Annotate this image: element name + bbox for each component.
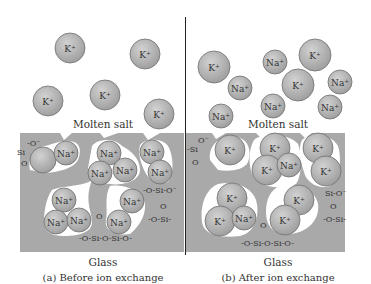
ion-label: Na⁺ — [151, 168, 169, 178]
potassium-ion-icon: K⁺ — [144, 99, 174, 129]
ion-label: Na⁺ — [91, 169, 109, 179]
sodium-ion-icon: Na⁺ — [277, 153, 301, 177]
silicate-network-label: O — [160, 202, 167, 211]
ion-label: K⁺ — [309, 51, 321, 61]
ion-label: Na⁺ — [116, 166, 134, 176]
potassium-ion-icon: K⁺ — [215, 135, 245, 165]
silicate-network-label: O — [260, 221, 267, 230]
sodium-ion-icon: Na⁺ — [148, 160, 172, 184]
ion-label: Na⁺ — [231, 84, 249, 94]
ion-label: K⁺ — [269, 144, 281, 154]
potassium-ion-icon: K⁺ — [282, 69, 314, 101]
ion-label: Na⁺ — [70, 216, 88, 226]
potassium-ion-icon: K⁺ — [198, 51, 230, 83]
potassium-ion-icon: K⁺ — [252, 155, 282, 185]
sodium-ion-icon: Na⁺ — [318, 95, 342, 119]
vacancy-ion-icon — [30, 147, 56, 173]
silicate-network-label: O — [192, 158, 199, 167]
ion-label: K⁺ — [139, 50, 151, 60]
molten-salt-label-b: Molten salt — [248, 118, 309, 130]
ion-label: Na⁺ — [123, 197, 141, 207]
ion-label: K⁺ — [312, 144, 324, 154]
ion-label: K⁺ — [320, 167, 332, 177]
ion-label: Na⁺ — [57, 149, 75, 159]
sodium-ion-icon: Na⁺ — [228, 76, 252, 100]
ion-label: K⁺ — [153, 110, 165, 120]
ion-label: Na⁺ — [264, 102, 282, 112]
potassium-ion-icon: K⁺ — [33, 86, 63, 116]
potassium-ion-icon: K⁺ — [90, 80, 120, 110]
sodium-ion-icon: Na⁺ — [67, 208, 91, 232]
sodium-ion-icon: Na⁺ — [88, 161, 112, 185]
potassium-ion-icon: K⁺ — [55, 33, 85, 63]
ion-label: Na⁺ — [100, 149, 118, 159]
silicate-network-label: -O-Si-O-Si-O- — [79, 234, 132, 243]
ion-label: Na⁺ — [280, 161, 298, 171]
silicate-network-label: O⁻ — [198, 136, 209, 145]
silicate-network-label: O — [21, 159, 28, 168]
silicate-network-label: O — [330, 202, 337, 211]
ion-label: K⁺ — [64, 44, 76, 54]
ion-label: K⁺ — [293, 196, 305, 206]
potassium-ion-icon: K⁺ — [205, 206, 235, 236]
ion-label: Na⁺ — [110, 218, 128, 228]
sodium-ion-icon: Na⁺ — [54, 141, 78, 165]
silicate-network-label: O — [96, 212, 103, 221]
potassium-ion-icon: K⁺ — [311, 156, 341, 186]
ion-label: Na⁺ — [212, 112, 230, 122]
ion-label: Na⁺ — [331, 78, 349, 88]
ion-label: Na⁺ — [143, 148, 161, 158]
ion-label: Na⁺ — [235, 214, 253, 224]
ion-label: K⁺ — [208, 63, 220, 73]
caption-a: (a) Before ion exchange — [43, 272, 164, 283]
ion-label: K⁺ — [42, 97, 54, 107]
caption-b: (b) After ion exchange — [221, 272, 334, 283]
potassium-ion-icon: K⁺ — [130, 39, 160, 69]
sodium-ion-icon: Na⁺ — [261, 94, 285, 118]
molten-salt-label-a: Molten salt — [73, 118, 134, 130]
sodium-ion-icon: Na⁺ — [263, 50, 287, 74]
sodium-ion-icon: Na⁺ — [328, 70, 352, 94]
ion-label: Na⁺ — [55, 196, 73, 206]
ion-label: Na⁺ — [321, 103, 339, 113]
silicate-network-label: -Si — [187, 145, 198, 154]
glass-label-b: Glass — [264, 256, 293, 268]
sodium-ion-icon: Na⁺ — [44, 210, 68, 234]
ion-label: Na⁺ — [47, 218, 65, 228]
ion-label: K⁺ — [224, 146, 236, 156]
silicate-network-label: -O-Si- — [323, 215, 346, 224]
ion-label: K⁺ — [226, 194, 238, 204]
potassium-ion-icon: K⁺ — [270, 205, 300, 235]
ion-exchange-diagram: K⁺K⁺K⁺K⁺K⁺Na⁺Na⁺Na⁺Na⁺Na⁺Na⁺Na⁺Na⁺Na⁺Na⁺… — [0, 0, 371, 284]
ion-label: K⁺ — [279, 216, 291, 226]
ion-label: K⁺ — [261, 166, 273, 176]
sodium-ion-icon: Na⁺ — [107, 210, 131, 234]
silicate-network-label: Si — [17, 148, 25, 157]
ion-label: K⁺ — [292, 81, 304, 91]
ion-label: K⁺ — [214, 217, 226, 227]
sodium-ion-icon: Na⁺ — [209, 104, 233, 128]
silicate-network-label: -O-Si- — [148, 215, 171, 224]
sodium-ion-icon: Na⁺ — [52, 188, 76, 212]
ion-label: K⁺ — [99, 91, 111, 101]
glass-label-a: Glass — [89, 256, 118, 268]
silicate-network-label: -O-Si-O⁻ — [143, 186, 177, 195]
sodium-ion-icon: Na⁺ — [120, 189, 144, 213]
ion-label: Na⁺ — [266, 58, 284, 68]
silicate-network-label: Si-O⁻ — [325, 189, 347, 198]
sodium-ion-icon: Na⁺ — [232, 206, 256, 230]
silicate-network-label: -O-Si-O-Si-O- — [241, 239, 294, 248]
potassium-ion-icon: K⁺ — [299, 39, 331, 71]
sodium-ion-icon: Na⁺ — [113, 158, 137, 182]
silicate-network-label: -O⁻ — [27, 139, 40, 148]
